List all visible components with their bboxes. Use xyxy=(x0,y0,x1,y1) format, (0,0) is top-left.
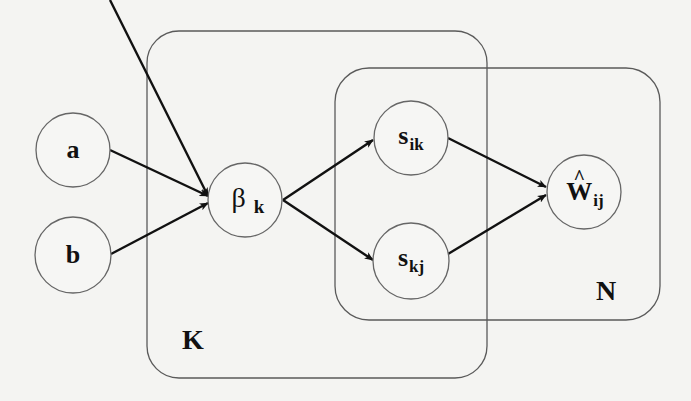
subscript-ik: ik xyxy=(409,135,423,154)
edge-beta-to-sik xyxy=(283,140,373,200)
graphical-model-diagram: a b βk sik skj ^Wij K N xyxy=(0,0,691,401)
node-s-ik-label: sik xyxy=(398,123,423,153)
node-w-hat-ij-label: ^Wij xyxy=(566,179,603,209)
edge-b-to-beta xyxy=(111,203,208,254)
subscript-k: k xyxy=(254,196,265,217)
hat-accent: ^ xyxy=(573,167,585,187)
symbol-s: s xyxy=(398,243,408,272)
node-b-label: b xyxy=(66,242,80,268)
symbol-a: a xyxy=(67,135,80,164)
edge-skj-to-what xyxy=(448,195,546,254)
plate-n-label: N xyxy=(596,277,616,305)
symbol-b: b xyxy=(66,240,80,269)
w-with-hat: ^W xyxy=(566,179,592,205)
label-n: N xyxy=(596,275,616,306)
label-k: K xyxy=(182,324,204,355)
edge-a-to-beta xyxy=(110,150,208,196)
edge-beta-to-skj xyxy=(283,200,373,260)
symbol-s: s xyxy=(398,121,408,150)
subscript-kj: kj xyxy=(409,257,424,276)
subscript-ij: ij xyxy=(593,191,603,210)
node-beta-k-label: βk xyxy=(232,184,265,216)
edge-a-to-beta xyxy=(110,0,208,196)
symbol-beta: β xyxy=(232,182,246,213)
edge-sik-to-what xyxy=(448,138,546,187)
node-a-label: a xyxy=(67,137,80,163)
node-s-kj-label: skj xyxy=(398,245,424,275)
plate-k-label: K xyxy=(182,326,204,354)
